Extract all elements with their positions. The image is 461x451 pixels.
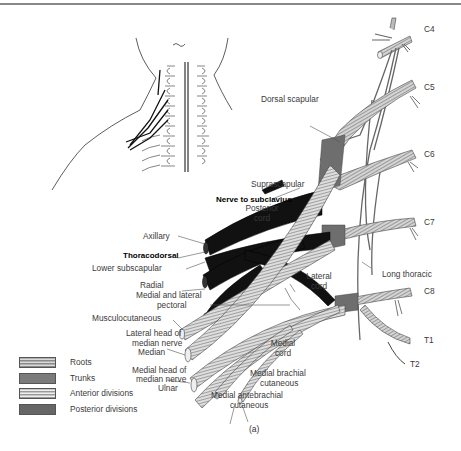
root-c4 xyxy=(372,18,412,59)
label-lateral-cord-line1: Lateral xyxy=(302,272,336,281)
legend-label: Roots xyxy=(70,357,92,367)
label-medial-cord-line2: cord xyxy=(266,349,300,358)
label-c4: C4 xyxy=(424,25,435,34)
label-medial-brachial-line2: cutaneous xyxy=(260,379,298,388)
label-medial-antebrachial-line2: cutaneous xyxy=(230,401,268,410)
label-lower-subscapular: Lower subscapular xyxy=(92,264,162,273)
label-c8: C8 xyxy=(424,287,435,296)
roots-swatch-icon xyxy=(19,357,56,368)
label-long-thoracic: Long thoracic xyxy=(382,270,432,279)
label-pectoral-line2: pectoral xyxy=(157,301,187,310)
label-c5: C5 xyxy=(424,83,435,92)
label-median: Median xyxy=(138,348,165,357)
label-pectoral-line1: Medial and lateral xyxy=(136,291,202,300)
label-c6: C6 xyxy=(424,150,435,159)
root-c7 xyxy=(340,218,418,240)
label-axillary: Axillary xyxy=(143,232,170,241)
legend-label: Trunks xyxy=(70,373,95,383)
label-dorsal-scapular: Dorsal scapular xyxy=(261,95,319,104)
posterior-swatch-icon xyxy=(19,404,56,415)
brachial-plexus-illustration xyxy=(0,0,461,451)
label-lateral-head-line1: Lateral head of xyxy=(126,329,181,338)
label-posterior-cord-line2: cord xyxy=(242,214,282,223)
label-t2: T2 xyxy=(410,360,420,369)
label-suprascapular: Suprascapular xyxy=(251,180,305,189)
label-medial-brachial-line1: Medial brachial xyxy=(250,369,306,378)
label-medial-antebrachial-line1: Medial antebrachial xyxy=(211,391,283,400)
label-thoracodorsal: Thoracodorsal xyxy=(123,251,179,260)
label-c7: C7 xyxy=(424,218,435,227)
legend-label: Posterior divisions xyxy=(70,404,137,414)
root-c6 xyxy=(330,150,418,190)
anterior-swatch-icon xyxy=(19,388,56,399)
label-lateral-cord-line2: cord xyxy=(302,282,336,291)
trunks-swatch-icon xyxy=(19,373,56,384)
figure-caption: (a) xyxy=(249,424,259,434)
label-radial: Radial xyxy=(140,281,164,290)
label-ulnar: Ulnar xyxy=(158,384,178,393)
label-posterior-cord-line1: Posterior xyxy=(242,204,282,213)
label-medial-cord-line1: Medial xyxy=(266,339,300,348)
neck-inset xyxy=(52,38,232,190)
label-t1: T1 xyxy=(424,336,434,345)
legend-label: Anterior divisions xyxy=(70,388,133,398)
label-musculocutaneous: Musculocutaneous xyxy=(92,314,161,323)
